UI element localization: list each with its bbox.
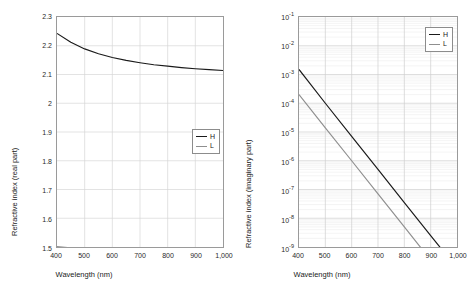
legend-label-l: L <box>210 141 214 150</box>
x-tick-label: 500 <box>319 252 331 259</box>
x-tick-label: 600 <box>345 252 357 259</box>
legend-swatch-h-icon <box>429 34 440 35</box>
legend-row-h: H <box>429 30 448 39</box>
plot-area-real: H L <box>56 16 224 248</box>
y-tick-label: 10-8 <box>272 214 294 223</box>
x-tick-label: 800 <box>162 252 174 259</box>
y-tick-label: 10-9 <box>272 243 294 252</box>
x-axis-title-imaginary: Wavelength (nm) <box>294 270 351 279</box>
x-tick-label: 1,000 <box>215 252 233 259</box>
panel-real-part: H L 1.51.61.71.81.922.12.22.3 4005006007… <box>0 0 236 304</box>
y-tick-label: 10-2 <box>272 40 294 49</box>
legend-row-l: L <box>196 141 215 150</box>
y-tick-label: 10-5 <box>272 127 294 136</box>
y-axis-title-real: Refractive index (real part) <box>10 148 19 236</box>
x-axis-title-real: Wavelength (nm) <box>56 270 113 279</box>
y-tick-label: 1.7 <box>32 187 52 194</box>
y-tick-label: 10-3 <box>272 69 294 78</box>
legend-label-h: H <box>210 132 215 141</box>
y-tick-label: 10-4 <box>272 98 294 107</box>
panel-imaginary-part: H L 10-110-210-310-410-510-610-710-810-9… <box>236 0 471 304</box>
y-tick-label: 1.9 <box>32 129 52 136</box>
legend-imaginary: H L <box>425 27 453 52</box>
x-tick-label: 900 <box>190 252 202 259</box>
y-tick-label: 2 <box>32 100 52 107</box>
x-tick-label: 700 <box>372 252 384 259</box>
legend-swatch-l-icon <box>429 44 440 45</box>
figure-two-panel-refractive-index: H L 1.51.61.71.81.922.12.22.3 4005006007… <box>0 0 471 304</box>
x-tick-label: 400 <box>292 252 304 259</box>
y-tick-label: 2.1 <box>32 71 52 78</box>
x-tick-label: 700 <box>134 252 146 259</box>
legend-row-l: L <box>429 39 448 48</box>
y-tick-label: 1.6 <box>32 216 52 223</box>
legend-swatch-l-icon <box>196 146 207 147</box>
y-tick-label: 2.2 <box>32 42 52 49</box>
x-tick-label: 1,000 <box>449 252 467 259</box>
y-tick-label: 1.8 <box>32 158 52 165</box>
legend-swatch-h-icon <box>196 136 207 137</box>
legend-real: H L <box>192 129 220 154</box>
y-tick-label: 1.5 <box>32 245 52 252</box>
y-tick-label: 2.3 <box>32 13 52 20</box>
x-tick-label: 600 <box>106 252 118 259</box>
legend-row-h: H <box>196 132 215 141</box>
x-tick-label: 900 <box>425 252 437 259</box>
y-tick-label: 10-1 <box>272 11 294 20</box>
plot-area-imaginary: H L <box>298 16 458 248</box>
y-axis-title-imaginary: Refractive index (imaginary part) <box>244 140 253 248</box>
legend-label-h: H <box>443 30 448 39</box>
x-tick-label: 500 <box>78 252 90 259</box>
y-tick-label: 10-6 <box>272 156 294 165</box>
x-tick-label: 400 <box>50 252 62 259</box>
x-tick-label: 800 <box>399 252 411 259</box>
y-tick-label: 10-7 <box>272 185 294 194</box>
legend-label-l: L <box>443 39 447 48</box>
